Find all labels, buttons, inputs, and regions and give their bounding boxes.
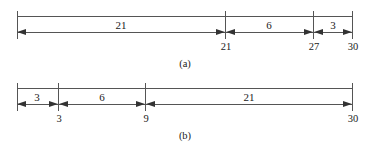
arrow-right-b-2 — [136, 101, 145, 107]
arrow-left-b-2 — [59, 101, 68, 107]
tick-label-a-27: 27 — [309, 42, 320, 53]
arrow-right-b-3 — [343, 101, 352, 107]
tick-label-b-30: 30 — [348, 114, 359, 125]
arrow-left-a-1 — [17, 29, 26, 35]
segment-label-a-2: 6 — [266, 20, 272, 31]
tick-label-b-3: 3 — [56, 114, 61, 125]
segment-label-a-1: 21 — [116, 20, 127, 31]
arrow-left-b-3 — [146, 101, 155, 107]
arrow-right-b-1 — [49, 101, 58, 107]
tick-label-a-30: 30 — [348, 42, 359, 53]
arrow-left-a-3 — [314, 29, 323, 35]
segment-label-b-1: 3 — [34, 92, 40, 103]
segment-label-b-3: 21 — [244, 92, 255, 103]
figure-caption-a: (a) — [179, 59, 191, 70]
arrow-right-a-3 — [343, 29, 352, 35]
arrow-left-a-2 — [226, 29, 235, 35]
tick-label-b-9: 9 — [143, 114, 148, 125]
tick-label-a-21: 21 — [221, 42, 232, 53]
number-line-diagram-a: 21 6 3 21 27 30 (a) — [0, 0, 368, 74]
arrow-right-a-2 — [304, 29, 313, 35]
figure-root: 21 6 3 21 27 30 (a) — [0, 0, 368, 148]
figure-caption-b: (b) — [179, 131, 191, 142]
arrow-left-b-1 — [17, 101, 26, 107]
segment-label-b-2: 6 — [99, 92, 105, 103]
number-line-diagram-b: 3 6 21 3 9 30 (b) — [0, 74, 368, 148]
arrow-right-a-1 — [216, 29, 225, 35]
segment-label-a-3: 3 — [330, 20, 336, 31]
